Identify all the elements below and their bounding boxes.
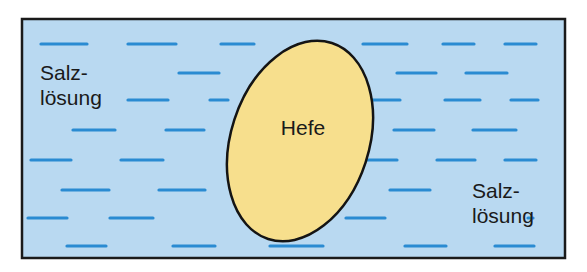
right-label-line1: Salz- — [472, 179, 520, 202]
right-label-line2: lösung — [472, 204, 534, 227]
left-label-line1: Salz- — [40, 61, 88, 84]
left-label-line2: lösung — [40, 86, 102, 109]
yeast-label: Hefe — [281, 116, 325, 139]
yeast-in-salt-solution-diagram: Hefe Salz- lösung Salz- lösung — [0, 0, 587, 272]
